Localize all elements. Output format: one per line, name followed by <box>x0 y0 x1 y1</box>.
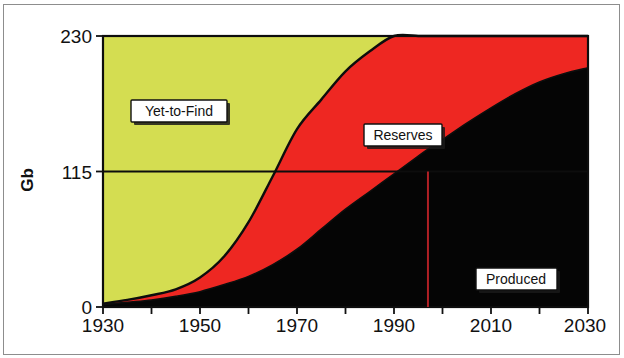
xtick-label-1970: 1970 <box>276 315 318 336</box>
ytick-label-115: 115 <box>62 162 92 183</box>
label-yet-to-find-text: Yet-to-Find <box>145 103 213 119</box>
xtick-label-1930: 1930 <box>82 315 124 336</box>
xtick-label-2010: 2010 <box>470 315 512 336</box>
y-axis-title: Gb <box>18 168 37 192</box>
xtick-label-1990: 1990 <box>373 315 415 336</box>
label-reserves-text: Reserves <box>373 127 432 143</box>
label-produced-text: Produced <box>486 271 546 287</box>
chart-figure: 230 115 0 Gb 1930 1950 1970 1990 2010 20… <box>0 0 624 358</box>
xtick-label-2030: 2030 <box>564 315 606 336</box>
label-produced: Produced <box>476 268 560 293</box>
xtick-label-1950: 1950 <box>179 315 221 336</box>
label-reserves: Reserves <box>364 124 445 149</box>
label-yet-to-find: Yet-to-Find <box>131 100 230 125</box>
ytick-label-230: 230 <box>60 26 92 47</box>
stacked-area-chart: 230 115 0 Gb 1930 1950 1970 1990 2010 20… <box>0 0 624 358</box>
